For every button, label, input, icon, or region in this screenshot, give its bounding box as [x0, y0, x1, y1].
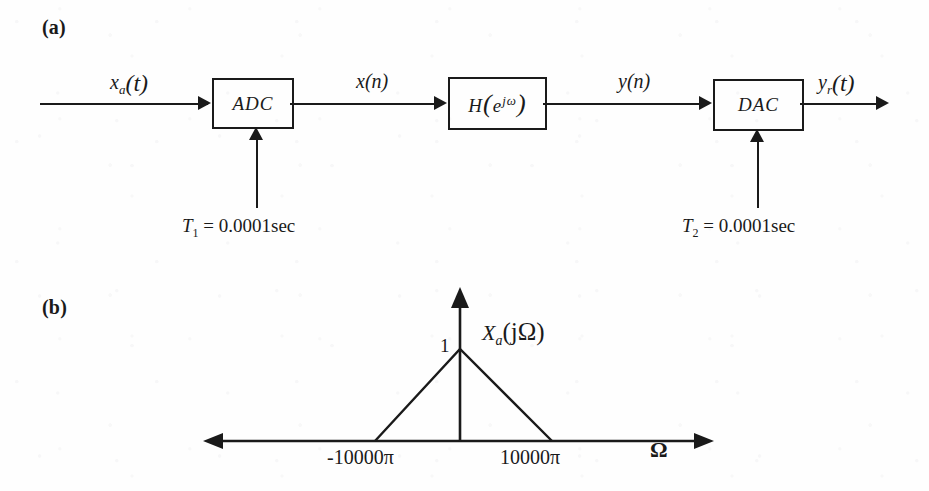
magnitude-axis-arrow-icon: [451, 287, 469, 308]
spectrum-plot: [0, 0, 929, 491]
omega-axis-right-arrow-icon: [694, 433, 714, 449]
function-label-base: X: [482, 320, 495, 345]
x-tick-label-positive: 10000π: [500, 446, 560, 469]
function-label-arg: (jΩ): [502, 318, 544, 345]
figure-canvas: (a) xa(t) ADC x(n) H(ejω) y(n) DAC yr(t): [0, 0, 929, 491]
peak-amplitude-label: 1: [440, 335, 450, 357]
function-label: Xa(jΩ): [482, 318, 545, 349]
spectrum-triangle-trace: [375, 349, 552, 441]
omega-axis-left-arrow-icon: [203, 433, 223, 449]
x-axis-label: Ω: [650, 437, 668, 463]
x-tick-label-negative: -10000π: [327, 446, 394, 469]
